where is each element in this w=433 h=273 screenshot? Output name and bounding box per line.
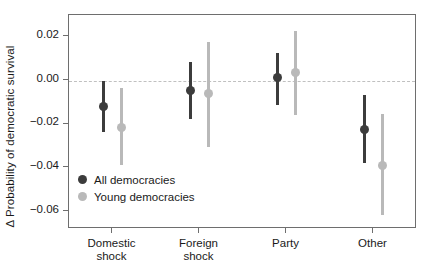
legend-swatch-icon [78, 192, 87, 201]
y-tick-label: −0.06 [30, 203, 59, 215]
legend-label: Young democracies [94, 191, 195, 203]
data-point [378, 161, 387, 170]
y-axis-title: Δ Probability of democratic survival [0, 0, 20, 273]
y-tick-label: −0.04 [30, 159, 59, 171]
legend-swatch-icon [78, 175, 87, 184]
x-tick-label: Other [313, 237, 433, 250]
plot-area: All democraciesYoung democracies [68, 14, 416, 228]
data-point [204, 89, 213, 98]
data-point [186, 86, 195, 95]
zero-reference-line [69, 81, 415, 82]
y-tick-label: 0.00 [37, 72, 59, 84]
x-tick-label-line: shock [139, 250, 259, 263]
legend-item[interactable]: Young democracies [78, 188, 195, 205]
x-tick-label-line: Other [313, 237, 433, 250]
data-point [291, 68, 300, 77]
chart-legend: All democraciesYoung democracies [78, 171, 195, 205]
y-tick-label: −0.02 [30, 115, 59, 127]
data-point [360, 125, 369, 134]
data-point [99, 102, 108, 111]
x-tick-mark [285, 228, 286, 233]
x-tick-mark [198, 228, 199, 233]
legend-item[interactable]: All democracies [78, 171, 195, 188]
x-tick-mark [111, 228, 112, 233]
legend-label: All democracies [94, 174, 175, 186]
data-point [117, 123, 126, 132]
y-tick-label: 0.02 [37, 28, 59, 40]
chart-figure: Δ Probability of democratic survival 0.0… [0, 0, 433, 273]
x-tick-mark [372, 228, 373, 233]
